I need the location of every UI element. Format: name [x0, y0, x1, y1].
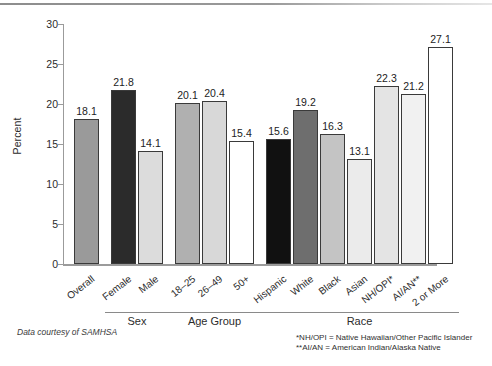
y-axis-tick: 15 [14, 139, 58, 149]
group-bracket-rule [169, 312, 260, 313]
bar-value-label: 21.8 [106, 77, 141, 88]
y-axis-tick: 20 [14, 99, 58, 109]
group-bracket-rule [105, 312, 169, 313]
bar-value-label: 19.2 [288, 97, 323, 108]
bar-value-label: 15.4 [224, 128, 259, 139]
y-axis-tick-label: 0 [24, 259, 58, 269]
bar [347, 159, 372, 264]
y-axis-tick-mark [58, 184, 64, 185]
bar [428, 47, 453, 264]
chart-figure: Percent 051015202530 18.121.814.120.120.… [0, 0, 492, 366]
bar [293, 110, 318, 264]
bar [229, 141, 254, 264]
y-axis-tick-mark [58, 104, 64, 105]
bar [175, 103, 200, 264]
bar-value-label: 13.1 [342, 146, 377, 157]
y-axis-tick-label: 5 [24, 219, 58, 229]
bar-value-label: 15.6 [261, 126, 296, 137]
bar-value-label: 20.4 [197, 88, 232, 99]
bar [266, 139, 291, 264]
y-axis-tick-label: 20 [24, 99, 58, 109]
y-axis-tick-label: 10 [24, 179, 58, 189]
y-axis-tick: 10 [14, 179, 58, 189]
y-axis-tick-label: 15 [24, 139, 58, 149]
bar-value-label: 14.1 [133, 138, 168, 149]
bar-value-label: 18.1 [69, 106, 104, 117]
footnote-aian: **AI/AN = American Indian/Alaska Native [296, 343, 441, 353]
y-axis-tick-mark [58, 24, 64, 25]
y-axis-tick-mark [58, 64, 64, 65]
y-axis-tick-label: 30 [24, 19, 58, 29]
plot-area: Percent 051015202530 18.121.814.120.120.… [0, 0, 492, 366]
bar [74, 119, 99, 264]
group-label: Age Group [169, 315, 260, 328]
y-axis-tick: 30 [14, 19, 58, 29]
group-label: Race [260, 315, 459, 328]
bar [138, 151, 163, 264]
footnote-nhopi: *NH/OPI = Native Hawaiian/Other Pacific … [296, 333, 472, 343]
y-axis-tick: 25 [14, 59, 58, 69]
bar-value-label: 27.1 [423, 34, 458, 45]
x-axis-line [63, 264, 437, 266]
bar [202, 101, 227, 264]
group-bracket-rule [260, 312, 459, 313]
bar [111, 90, 136, 264]
y-axis-tick-label: 25 [24, 59, 58, 69]
y-axis-tick: 0 [14, 259, 58, 269]
bar [374, 86, 399, 264]
y-axis-tick-mark [58, 264, 64, 265]
bar-value-label: 16.3 [315, 121, 350, 132]
y-axis-tick-mark [58, 224, 64, 225]
bar-value-label: 21.2 [396, 81, 431, 92]
y-axis-tick-mark [58, 144, 64, 145]
bar [401, 94, 426, 264]
source-note: Data courtesy of SAMHSA [17, 327, 117, 337]
y-axis-tick: 5 [14, 219, 58, 229]
